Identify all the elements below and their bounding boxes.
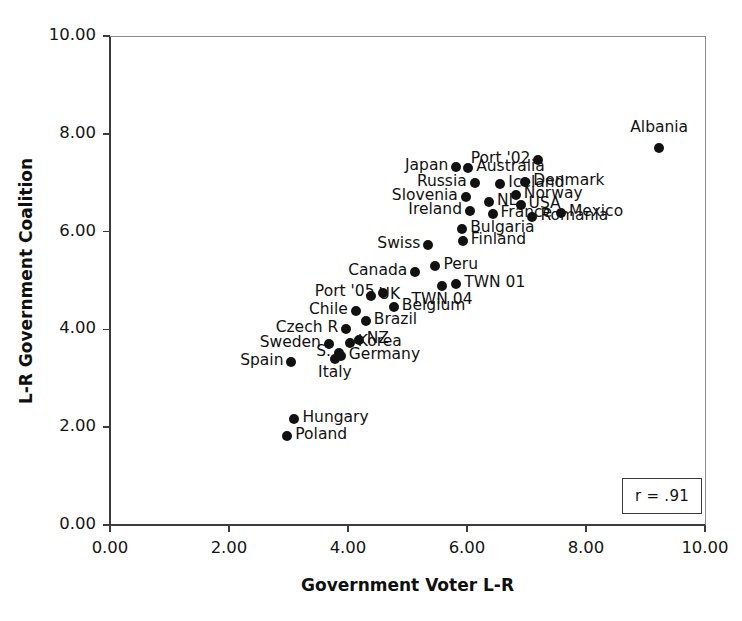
correlation-value: r = .91 bbox=[635, 487, 689, 505]
scatter-plot-figure: L-R Government Coalition Government Vote… bbox=[0, 0, 742, 621]
data-point bbox=[458, 236, 468, 246]
data-point-label: Albania bbox=[630, 118, 688, 136]
data-point bbox=[654, 143, 664, 153]
y-axis-spine bbox=[109, 36, 111, 526]
y-tick-label: 2.00 bbox=[10, 416, 96, 435]
plot-frame-top bbox=[110, 36, 705, 37]
x-tick-mark bbox=[228, 525, 230, 532]
data-point bbox=[465, 206, 475, 216]
y-tick-label: 10.00 bbox=[10, 25, 96, 44]
data-point-label: Canada bbox=[348, 261, 407, 279]
data-point-label: Chile bbox=[309, 300, 348, 318]
data-point bbox=[410, 267, 420, 277]
data-point bbox=[289, 414, 299, 424]
data-point-label: TWN 01 bbox=[464, 273, 525, 291]
data-point-label: Brazil bbox=[374, 310, 417, 328]
data-point bbox=[423, 240, 433, 250]
x-tick-label: 4.00 bbox=[298, 538, 398, 557]
data-point bbox=[457, 224, 467, 234]
correlation-annotation-box: r = .91 bbox=[622, 478, 702, 514]
x-tick-label: 0.00 bbox=[60, 538, 160, 557]
y-tick-label: 8.00 bbox=[10, 123, 96, 142]
data-point bbox=[495, 179, 505, 189]
data-point-label: Poland bbox=[295, 425, 347, 443]
data-point-label: Spain bbox=[240, 351, 283, 369]
y-tick-label: 0.00 bbox=[10, 514, 96, 533]
data-point-label: Ireland bbox=[408, 200, 462, 218]
y-tick-mark bbox=[103, 133, 110, 135]
data-point bbox=[361, 316, 371, 326]
x-tick-mark bbox=[109, 525, 111, 532]
data-point-label: Italy bbox=[318, 363, 352, 381]
data-point-label: UK bbox=[379, 285, 401, 303]
data-point bbox=[451, 162, 461, 172]
y-tick-label: 6.00 bbox=[10, 221, 96, 240]
y-tick-label: 4.00 bbox=[10, 318, 96, 337]
x-tick-mark bbox=[347, 525, 349, 532]
plot-frame-right bbox=[705, 36, 706, 525]
data-point bbox=[470, 178, 480, 188]
data-point-label: Hungary bbox=[302, 408, 368, 426]
x-tick-label: 2.00 bbox=[179, 538, 279, 557]
x-tick-label: 10.00 bbox=[655, 538, 742, 557]
data-point-label: Germany bbox=[349, 345, 420, 363]
x-tick-mark bbox=[585, 525, 587, 532]
data-point-label: S. bbox=[316, 342, 331, 360]
y-tick-mark bbox=[103, 426, 110, 428]
y-tick-mark bbox=[103, 329, 110, 331]
x-tick-mark bbox=[704, 525, 706, 532]
data-point bbox=[341, 324, 351, 334]
data-point-label: Peru bbox=[443, 255, 478, 273]
data-point bbox=[484, 197, 494, 207]
data-point-label: Sweden bbox=[260, 333, 321, 351]
data-point-label: Finland bbox=[471, 230, 526, 248]
x-tick-mark bbox=[466, 525, 468, 532]
data-point bbox=[351, 306, 361, 316]
y-tick-mark bbox=[103, 35, 110, 37]
data-point-label: Romania bbox=[540, 206, 608, 224]
data-point bbox=[461, 192, 471, 202]
x-tick-label: 6.00 bbox=[417, 538, 517, 557]
data-point bbox=[282, 431, 292, 441]
x-axis-spine bbox=[110, 524, 705, 526]
data-point-label: Swiss bbox=[377, 234, 420, 252]
data-point bbox=[451, 279, 461, 289]
data-point bbox=[430, 261, 440, 271]
y-axis-title: L-R Government Coalition bbox=[16, 157, 36, 403]
y-tick-mark bbox=[103, 231, 110, 233]
data-point bbox=[366, 291, 376, 301]
x-axis-title: Government Voter L-R bbox=[110, 575, 705, 595]
x-tick-label: 8.00 bbox=[536, 538, 636, 557]
data-point bbox=[286, 357, 296, 367]
